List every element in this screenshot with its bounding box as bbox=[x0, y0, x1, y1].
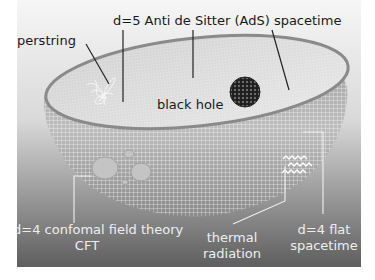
label-black-hole: black hole bbox=[157, 97, 223, 113]
black-hole-icon bbox=[230, 77, 260, 107]
label-flat-line1: d=4 flat bbox=[287, 222, 361, 238]
label-thermal-radiation: thermal radiation bbox=[197, 230, 267, 262]
label-superstring: superstring bbox=[17, 33, 76, 49]
label-cft: d=4 confomal field theory CFT bbox=[17, 222, 161, 254]
label-cft-line2: CFT bbox=[17, 238, 161, 254]
diagram-panel: superstring d=5 Anti de Sitter (AdS) spa… bbox=[17, 0, 361, 267]
label-thermal-line1: thermal bbox=[197, 230, 267, 246]
label-ads-spacetime: d=5 Anti de Sitter (AdS) spacetime bbox=[113, 13, 341, 29]
label-cft-line1: d=4 confomal field theory bbox=[17, 222, 161, 238]
label-thermal-line2: radiation bbox=[197, 246, 267, 262]
label-flat-spacetime: d=4 flat spacetime bbox=[287, 222, 361, 254]
label-flat-line2: spacetime bbox=[287, 238, 361, 254]
